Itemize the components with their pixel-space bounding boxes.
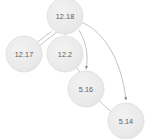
graph-node-5-16[interactable]: 5.16 <box>68 71 104 107</box>
node-label: 5.16 <box>79 85 93 94</box>
node-layer: 12.18 12.17 12.2 5.16 5.14 <box>6 0 144 139</box>
node-label: 5.14 <box>119 117 133 126</box>
graph-canvas: 12.18 12.17 12.2 5.16 5.14 <box>0 0 151 139</box>
graph-node-12-18[interactable]: 12.18 <box>47 0 83 34</box>
graph-node-12-2[interactable]: 12.2 <box>47 36 83 72</box>
graph-node-5-14[interactable]: 5.14 <box>108 103 144 139</box>
node-label: 12.18 <box>56 12 75 21</box>
node-label: 12.2 <box>58 50 72 59</box>
graph-svg: 12.18 12.17 12.2 5.16 5.14 <box>0 0 151 139</box>
node-label: 12.17 <box>15 50 34 59</box>
graph-node-12-17[interactable]: 12.17 <box>6 36 42 72</box>
